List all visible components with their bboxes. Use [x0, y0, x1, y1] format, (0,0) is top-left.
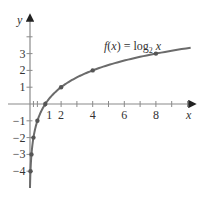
y-tick-label: −3	[13, 147, 26, 161]
data-point	[35, 119, 39, 123]
function-label: f(x) = log2 x	[104, 39, 162, 55]
x-tick-label: 8	[153, 108, 159, 122]
y-tick-label: 2	[20, 63, 26, 77]
fn-arg: x	[153, 39, 162, 53]
axes	[8, 15, 195, 188]
log-function-plot: 12468 −4−3−2−1123 x y f(x) = log2 x	[0, 0, 205, 200]
data-point	[31, 135, 35, 139]
fn-eq: ) = log	[117, 39, 149, 53]
data-point	[59, 85, 63, 89]
data-point	[29, 152, 33, 156]
y-axis-label: y	[16, 13, 23, 27]
data-point	[91, 68, 95, 72]
x-axis-label: x	[185, 108, 192, 122]
y-tick-label: 3	[20, 47, 26, 61]
y-tick-label: 1	[20, 80, 26, 94]
y-tick-label: −4	[13, 164, 26, 178]
y-tick-label: −2	[13, 131, 26, 145]
data-point	[43, 102, 47, 106]
log2-curve	[30, 48, 191, 188]
x-tick-label: 2	[58, 108, 64, 122]
x-tick-label: 1	[46, 108, 52, 122]
x-tick-label: 4	[90, 108, 96, 122]
y-tick-label: −1	[13, 114, 26, 128]
x-tick-label: 6	[121, 108, 127, 122]
data-point	[28, 169, 32, 173]
